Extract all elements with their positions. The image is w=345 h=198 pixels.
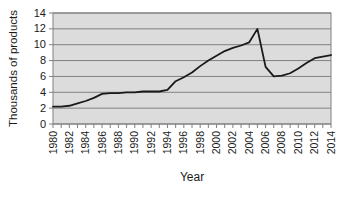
x-tick-label: 1996 — [177, 131, 189, 155]
plot-background — [53, 13, 331, 124]
y-tick-label: 4 — [40, 86, 46, 98]
line-chart: Thousands of products 024681012141980198… — [0, 0, 345, 198]
y-tick-label: 2 — [40, 102, 46, 114]
x-tick-label: 2002 — [226, 131, 238, 155]
x-tick-label: 2008 — [275, 131, 287, 155]
x-tick-label: 1980 — [47, 131, 59, 155]
x-tick-label: 1998 — [194, 131, 206, 155]
x-tick-label: 2006 — [259, 131, 271, 155]
x-tick-label: 2000 — [210, 131, 222, 155]
y-tick-label: 14 — [34, 7, 46, 19]
x-tick-label: 2014 — [325, 131, 337, 155]
x-tick-label: 1984 — [79, 131, 91, 155]
x-tick-label: 1982 — [63, 131, 75, 155]
x-tick-label: 2010 — [292, 131, 304, 155]
y-tick-label: 0 — [40, 118, 46, 130]
x-tick-label: 1988 — [112, 131, 124, 155]
x-tick-label: 1986 — [96, 131, 108, 155]
x-tick-label: 2012 — [308, 131, 320, 155]
y-tick-label: 6 — [40, 70, 46, 82]
x-tick-label: 1990 — [128, 131, 140, 155]
y-tick-label: 10 — [34, 38, 46, 50]
y-tick-label: 8 — [40, 54, 46, 66]
x-tick-label: 1992 — [145, 131, 157, 155]
x-axis-title: Year — [152, 169, 232, 185]
x-tick-label: 1994 — [161, 131, 173, 155]
x-tick-label: 2004 — [243, 131, 255, 155]
y-tick-label: 12 — [34, 22, 46, 34]
